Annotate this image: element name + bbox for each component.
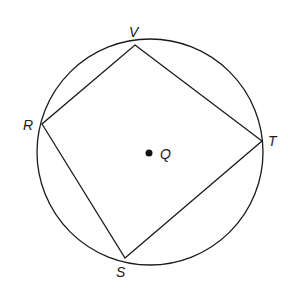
circle-diagram: V T S R Q [0,0,288,293]
label-v: V [129,24,140,40]
label-t: T [268,133,278,149]
label-s: S [116,264,126,280]
label-q: Q [160,146,171,162]
center-point-q [146,150,153,157]
label-r: R [23,117,33,133]
